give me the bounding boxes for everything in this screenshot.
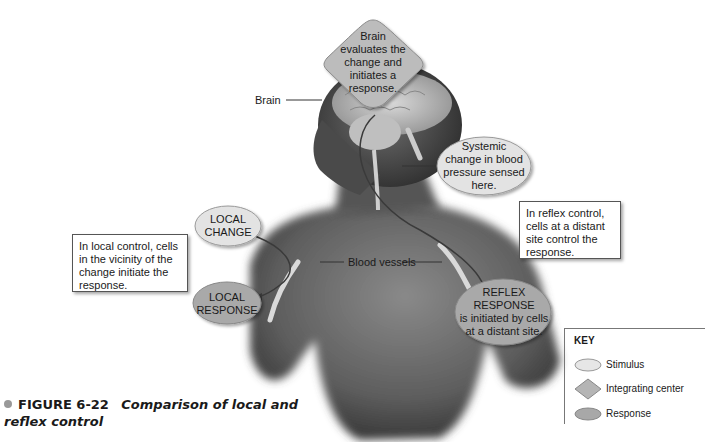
callout-line: at a distant site. xyxy=(465,325,542,338)
callout-line: CHANGE xyxy=(204,226,251,239)
note-line: site control the xyxy=(526,233,614,246)
note-line: In reflex control, xyxy=(526,207,614,220)
blood-vessels-label: Blood vessels xyxy=(348,256,416,269)
legend-label: Response xyxy=(606,408,651,419)
local-control-note: In local control, cells in the vicinity … xyxy=(72,234,188,292)
note-line: change initiate the xyxy=(79,266,181,279)
callout-line: RESPONSE xyxy=(473,299,534,312)
callout-line: change and xyxy=(344,56,402,69)
stimulus-ellipse-icon xyxy=(573,358,603,372)
note-line: in the vicinity of the xyxy=(79,253,181,266)
integrating-center-diamond-icon xyxy=(573,378,603,400)
integrating-center-callout: Brain evaluates the change and initiates… xyxy=(330,25,416,99)
legend-label: Stimulus xyxy=(606,359,644,370)
local-response-callout: LOCAL RESPONSE xyxy=(194,288,260,320)
figure-title-continued: reflex control xyxy=(4,413,298,430)
callout-line: LOCAL xyxy=(209,291,245,304)
response-ellipse-icon xyxy=(573,407,603,421)
callout-line: change in blood xyxy=(445,153,523,166)
legend-title: KEY xyxy=(574,335,595,346)
callout-line: RESPONSE xyxy=(196,304,257,317)
reflex-control-note: In reflex control, cells at a distant si… xyxy=(519,201,621,259)
legend-label: Integrating center xyxy=(606,383,684,394)
callout-line: initiates a xyxy=(350,69,396,82)
callout-line: LOCAL xyxy=(210,213,246,226)
local-change-callout: LOCAL CHANGE xyxy=(196,210,260,242)
figure-number: FIGURE 6-22 xyxy=(18,397,109,412)
note-line: In local control, cells xyxy=(79,240,181,253)
callout-line: evaluates the xyxy=(340,43,405,56)
caption-line-1: FIGURE 6-22 Comparison of local and xyxy=(4,396,298,413)
callout-line: is initiated by cells xyxy=(460,312,549,325)
callout-line: Brain xyxy=(360,30,386,43)
legend-key: KEY Stimulus Integrating center Response xyxy=(564,328,705,424)
callout-line: Systemic xyxy=(462,140,507,153)
callout-line: response. xyxy=(349,82,397,95)
note-line: response. xyxy=(79,279,181,292)
reflex-response-callout: REFLEX RESPONSE is initiated by cells at… xyxy=(455,284,553,340)
brain-label: Brain xyxy=(255,94,281,107)
figure-caption: FIGURE 6-22 Comparison of local and refl… xyxy=(4,396,298,430)
systemic-change-callout: Systemic change in blood pressure sensed… xyxy=(438,140,530,192)
note-line: response. xyxy=(526,246,614,259)
callout-line: REFLEX xyxy=(483,286,526,299)
callout-line: pressure sensed xyxy=(443,166,524,179)
caption-bullet-icon xyxy=(4,400,12,408)
callout-line: here. xyxy=(471,179,496,192)
figure-title: Comparison of local and xyxy=(121,397,298,412)
note-line: cells at a distant xyxy=(526,220,614,233)
